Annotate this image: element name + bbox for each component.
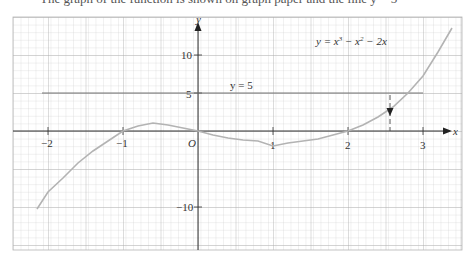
x-tick-label: −2 bbox=[41, 137, 53, 149]
curve-equation-label: y = x3 − x2 − 2x bbox=[315, 35, 387, 47]
graph-paper-chart: x y −2 −1 1 2 3 O 10 5 −10 y = 5 y = x3 … bbox=[0, 0, 473, 263]
x-tick-label: 2 bbox=[345, 139, 351, 151]
y-axis-label: y bbox=[195, 13, 201, 25]
y-tick-label: −10 bbox=[176, 201, 194, 213]
x-tick-label: 3 bbox=[420, 139, 426, 151]
x-axis-label: x bbox=[452, 125, 458, 137]
y-tick-label: 10 bbox=[181, 49, 193, 61]
x-tick-label: −1 bbox=[116, 137, 128, 149]
y-tick-label: 5 bbox=[186, 88, 192, 100]
line-label-y-equals-5: y = 5 bbox=[230, 79, 253, 91]
grid-paper bbox=[13, 17, 462, 250]
origin-label: O bbox=[188, 137, 196, 149]
